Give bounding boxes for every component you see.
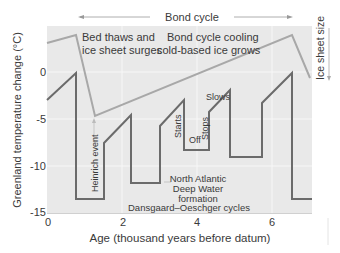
y-tick-minus15: -15: [30, 206, 46, 218]
x-tick-6: 6: [269, 216, 275, 228]
x-axis-title: Age (thousand years before datum): [90, 232, 271, 244]
x-tick-2: 2: [120, 216, 126, 228]
bed-thaws-label-1: Bed thaws and: [82, 31, 155, 43]
ice-sheet-arrow: [327, 28, 331, 81]
x-axis-ticks: 0 2 4 6: [45, 216, 275, 228]
starts-label: Starts: [173, 114, 183, 138]
bed-thaws-label-2: ice sheet surges: [82, 44, 163, 56]
y-tick-minus10: -10: [30, 160, 46, 172]
y-tick-0: 0: [40, 66, 46, 78]
slows-label: Slows: [206, 92, 231, 102]
y-axis-title: Greenland temperature change (°C): [11, 32, 23, 208]
stops-label: Stops: [200, 116, 210, 140]
x-tick-0: 0: [45, 216, 51, 228]
chart: Bond cycle Bed thaws and ice sheet surge…: [0, 0, 340, 253]
heinrich-event-label: Heinrich event: [90, 134, 100, 192]
off-label: Off: [189, 135, 201, 145]
do-cycles-label: Dansgaard–Oeschger cycles: [128, 202, 250, 213]
bond-cooling-label-1: Bond cycle cooling: [167, 31, 259, 43]
bond-cooling-label-2: cold-based ice grows: [157, 44, 261, 56]
x-tick-4: 4: [194, 216, 200, 228]
y-axis-ticks: 0 -5 -10 -15: [30, 66, 46, 218]
bond-cycle-label: Bond cycle: [165, 11, 219, 23]
bond-cycle-arrow: Bond cycle: [78, 11, 293, 23]
ice-sheet-size-label: Ice sheet size: [314, 16, 326, 80]
y-tick-minus5: -5: [36, 113, 46, 125]
